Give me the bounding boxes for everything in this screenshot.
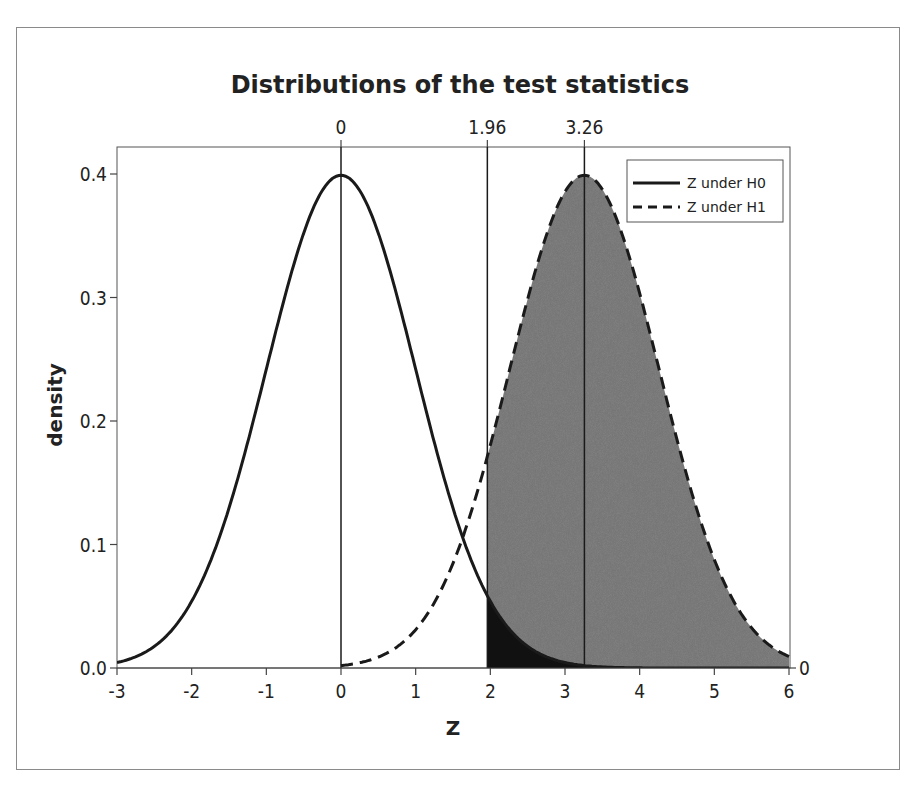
x-axis: -3-2-10123456 <box>108 668 794 702</box>
y-tick-label: 0.3 <box>80 287 107 309</box>
y-tick-label: 0.2 <box>80 410 107 432</box>
x-tick-label: 0 <box>336 680 347 702</box>
x-tick-label: 6 <box>784 680 795 702</box>
chart: Distributions of the test statistics -3-… <box>0 0 915 789</box>
legend-label-h1: Z under H1 <box>687 199 766 215</box>
top-axis-label: 1.96 <box>468 116 506 138</box>
y-tick-label: 0.1 <box>80 534 107 556</box>
y-tick-label: 0.4 <box>80 163 107 185</box>
legend-label-h0: Z under H0 <box>687 175 766 191</box>
x-tick-label: 4 <box>634 680 645 702</box>
x-tick-label: -3 <box>108 680 125 702</box>
right-axis-label: 0 <box>799 657 810 679</box>
chart-title: Distributions of the test statistics <box>231 71 690 99</box>
legend: Z under H0 Z under H1 <box>627 160 783 222</box>
x-tick-label: 2 <box>485 680 496 702</box>
y-axis-title: density <box>43 363 67 446</box>
x-axis-title: Z <box>446 716 461 740</box>
top-axis-label: 3.26 <box>565 116 603 138</box>
x-tick-label: 5 <box>709 680 720 702</box>
right-axis-labels: 0 <box>790 657 810 679</box>
y-tick-label: 0.0 <box>80 657 107 679</box>
top-axis-labels: 01.963.26 <box>336 116 604 147</box>
x-tick-label: -1 <box>258 680 275 702</box>
x-tick-label: -2 <box>183 680 200 702</box>
x-tick-label: 3 <box>560 680 571 702</box>
y-axis: 0.00.10.20.30.4 <box>80 163 117 679</box>
x-tick-label: 1 <box>410 680 421 702</box>
top-axis-label: 0 <box>336 116 347 138</box>
